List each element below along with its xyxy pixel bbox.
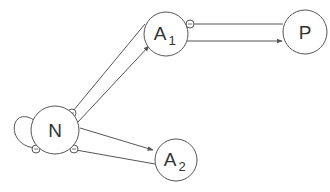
- node-a1: A 1: [144, 12, 188, 56]
- edge-a1-to-n: [73, 24, 145, 111]
- node-a1-label: A: [154, 23, 167, 44]
- node-a1-subscript: 1: [168, 33, 175, 48]
- node-a2-label: A: [164, 149, 177, 170]
- edge-n-to-a1: [78, 46, 149, 122]
- network-diagram: N A 1 A 2 P: [0, 0, 330, 192]
- edge-a2-to-n: [76, 150, 155, 164]
- node-n-label: N: [48, 120, 62, 141]
- node-p: P: [283, 10, 327, 54]
- node-n: N: [31, 106, 79, 154]
- edge-n-to-a2: [80, 128, 153, 150]
- node-p-label: P: [299, 22, 312, 43]
- node-a2: A 2: [155, 139, 197, 181]
- node-a2-subscript: 2: [178, 159, 185, 174]
